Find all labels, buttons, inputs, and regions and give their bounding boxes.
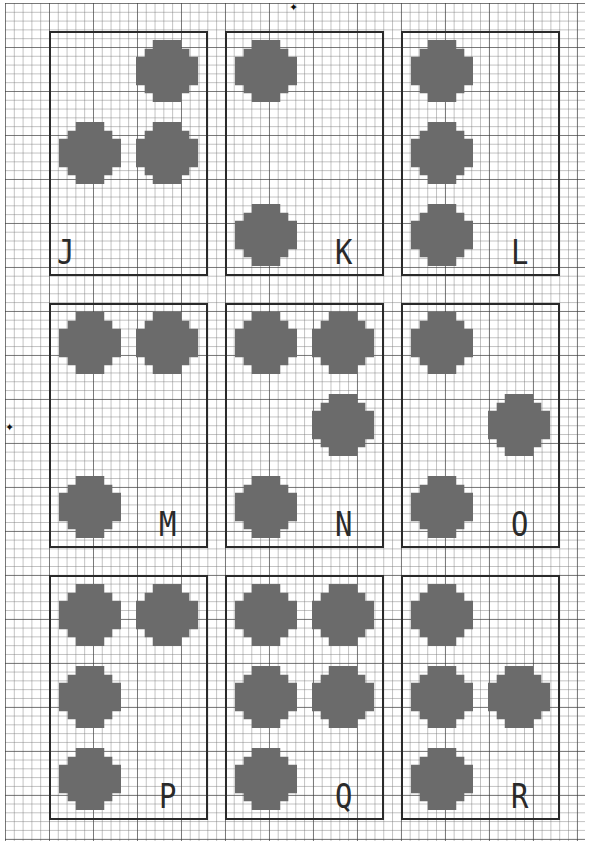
- top-center-marker-icon: ✦: [289, 2, 298, 13]
- braille-dot-3: [411, 748, 473, 810]
- braille-dot-2: [59, 122, 121, 184]
- braille-dot-1: [59, 584, 121, 646]
- braille-dot-4: [312, 312, 374, 374]
- braille-dot-5: [312, 394, 374, 456]
- braille-dot-5: [488, 666, 550, 728]
- braille-dot-3: [59, 476, 121, 538]
- braille-dot-3: [235, 204, 297, 266]
- braille-dot-4: [136, 40, 198, 102]
- braille-dot-1: [59, 312, 121, 374]
- cell-letter-label: N: [335, 507, 352, 541]
- braille-dot-1: [235, 584, 297, 646]
- cell-letter-label: Q: [335, 779, 352, 813]
- braille-dot-5: [312, 666, 374, 728]
- braille-dot-1: [411, 584, 473, 646]
- braille-dot-5: [488, 394, 550, 456]
- braille-dot-1: [411, 40, 473, 102]
- braille-dot-5: [136, 122, 198, 184]
- braille-dot-3: [411, 476, 473, 538]
- cell-letter-label: P: [159, 779, 176, 813]
- braille-dot-3: [235, 748, 297, 810]
- braille-dot-3: [411, 204, 473, 266]
- braille-dot-3: [235, 476, 297, 538]
- braille-dot-2: [411, 666, 473, 728]
- cell-letter-label: R: [511, 779, 528, 813]
- braille-dot-2: [411, 122, 473, 184]
- braille-dot-1: [411, 312, 473, 374]
- braille-dot-4: [312, 584, 374, 646]
- left-center-marker-icon: ✦: [5, 422, 14, 433]
- cell-letter-label: L: [511, 235, 528, 269]
- cell-letter-label: K: [335, 235, 352, 269]
- braille-dot-2: [235, 666, 297, 728]
- cell-letter-label: M: [159, 507, 176, 541]
- braille-dot-4: [136, 584, 198, 646]
- braille-dot-2: [59, 666, 121, 728]
- braille-dot-1: [235, 312, 297, 374]
- braille-dot-3: [59, 748, 121, 810]
- braille-dot-1: [235, 40, 297, 102]
- braille-dot-4: [136, 312, 198, 374]
- cell-letter-label: J: [57, 235, 74, 269]
- cell-letter-label: O: [511, 507, 528, 541]
